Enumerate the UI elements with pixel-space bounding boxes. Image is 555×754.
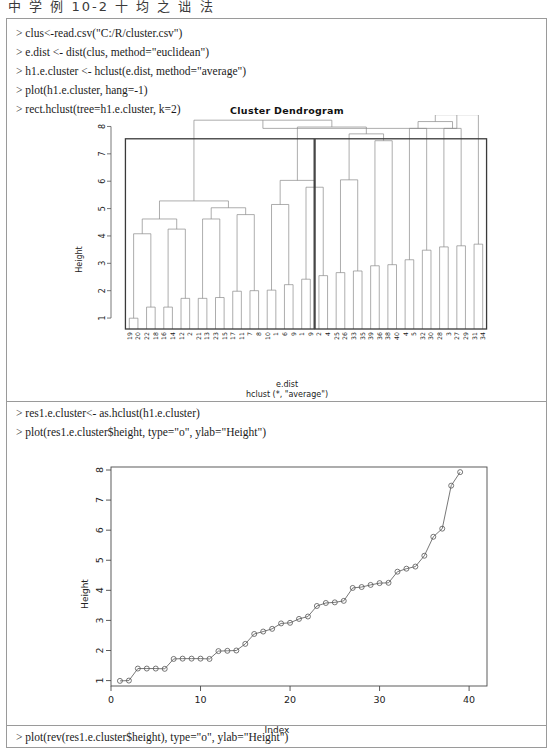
svg-text:6: 6 [99, 179, 108, 184]
svg-text:8: 8 [95, 467, 106, 473]
cluster-dendrogram-plot: Cluster Dendrogram Height e.dist hclust … [77, 105, 497, 401]
svg-text:30: 30 [427, 332, 434, 340]
svg-text:10: 10 [194, 694, 206, 705]
svg-text:8: 8 [255, 332, 262, 336]
svg-text:32: 32 [419, 332, 426, 340]
svg-text:26: 26 [341, 332, 348, 340]
svg-text:3: 3 [445, 332, 452, 336]
svg-text:2: 2 [186, 332, 193, 336]
svg-text:16: 16 [160, 332, 167, 340]
console-line-8: > plot(rev(res1.e.cluster$height), type=… [16, 731, 288, 743]
svg-text:6: 6 [95, 527, 106, 533]
svg-text:20: 20 [134, 332, 141, 340]
svg-text:18: 18 [152, 332, 159, 340]
svg-text:9: 9 [307, 332, 314, 336]
svg-text:2: 2 [99, 288, 108, 293]
console-line-6: > res1.e.cluster<- as.hclust(h1.e.cluste… [16, 407, 200, 419]
svg-text:13: 13 [203, 332, 210, 340]
console-line-3: > h1.e.cluster <- hclust(e.dist, method=… [16, 65, 246, 77]
svg-text:31: 31 [471, 332, 478, 340]
svg-text:5: 5 [95, 557, 106, 563]
console-line-4: > plot(h1.e.cluster, hang=-1) [16, 84, 148, 96]
svg-text:1: 1 [298, 332, 305, 336]
svg-text:40: 40 [463, 694, 475, 705]
dendrogram-canvas: 1234567819202218161412221132315171178101… [77, 115, 497, 385]
svg-text:33: 33 [350, 332, 357, 340]
svg-text:40: 40 [393, 332, 400, 340]
svg-text:27: 27 [453, 332, 460, 340]
svg-text:35: 35 [359, 332, 366, 340]
svg-text:28: 28 [436, 332, 443, 340]
svg-text:0: 0 [108, 694, 114, 705]
svg-text:8: 8 [99, 124, 108, 129]
svg-text:39: 39 [367, 332, 374, 340]
svg-text:3: 3 [95, 617, 106, 623]
svg-text:23: 23 [212, 332, 219, 340]
svg-text:7: 7 [246, 332, 253, 336]
svg-text:14: 14 [169, 332, 176, 340]
svg-text:22: 22 [143, 332, 150, 340]
svg-text:1: 1 [272, 332, 279, 336]
console-line-7: > plot(res1.e.cluster$height, type="o", … [16, 426, 266, 438]
svg-text:7: 7 [95, 497, 106, 503]
svg-text:4: 4 [99, 233, 108, 238]
svg-text:20: 20 [284, 694, 296, 705]
content-frame: > clus<-read.csv("C:/R/cluster.csv") > e… [6, 18, 547, 748]
svg-text:36: 36 [376, 332, 383, 340]
svg-text:1: 1 [95, 678, 106, 684]
svg-text:17: 17 [229, 332, 236, 340]
svg-text:11: 11 [238, 332, 245, 340]
svg-text:2: 2 [315, 332, 322, 336]
svg-text:4: 4 [324, 332, 331, 336]
svg-text:4: 4 [95, 587, 106, 593]
console-line-1: > clus<-read.csv("C:/R/cluster.csv") [16, 27, 182, 39]
svg-text:7: 7 [99, 151, 108, 156]
svg-text:12: 12 [178, 332, 185, 340]
svg-text:2: 2 [95, 647, 106, 653]
svg-text:34: 34 [479, 332, 486, 340]
svg-text:29: 29 [462, 332, 469, 340]
svg-text:3: 3 [99, 261, 108, 266]
svg-text:5: 5 [410, 332, 417, 336]
svg-text:1: 1 [99, 316, 108, 321]
page-header-text: 中 学 例 10-2 十 均 之 诎 法 [8, 0, 308, 14]
console-line-2: > e.dist <- dist(clus, method="euclidean… [16, 46, 209, 58]
svg-text:38: 38 [384, 332, 391, 340]
svg-text:30: 30 [374, 694, 386, 705]
svg-text:25: 25 [333, 332, 340, 340]
dendrogram-subtitle: hclust (*, "average") [77, 390, 497, 399]
svg-text:21: 21 [195, 332, 202, 340]
lineplot-canvas: 12345678010203040 [77, 459, 497, 724]
svg-text:15: 15 [221, 332, 228, 340]
divider-2 [7, 725, 546, 726]
svg-text:6: 6 [281, 332, 288, 336]
svg-text:10: 10 [264, 332, 271, 340]
svg-text:9: 9 [290, 332, 297, 336]
svg-text:4: 4 [402, 332, 409, 336]
height-index-line-plot: Height Index 12345678010203040 [77, 459, 527, 749]
divider-1 [7, 401, 546, 402]
svg-text:19: 19 [126, 332, 133, 340]
svg-text:5: 5 [99, 206, 108, 211]
